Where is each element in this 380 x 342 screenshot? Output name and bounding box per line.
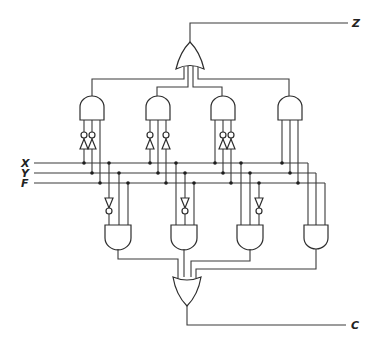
input-bus xyxy=(34,163,325,183)
inverter-icon xyxy=(227,132,235,149)
inverter-icon xyxy=(255,198,263,214)
and-gate-b2 xyxy=(171,225,197,250)
upper-and-gates xyxy=(80,96,302,120)
inverter-icon xyxy=(181,198,189,214)
inverter-icon xyxy=(219,132,227,149)
inverter-icon xyxy=(80,132,88,149)
and-gate-a2 xyxy=(146,96,170,120)
inverter-icon xyxy=(146,132,154,149)
inverter-icon xyxy=(105,198,113,214)
lower-inverters xyxy=(105,198,263,214)
and-gate-b4 xyxy=(304,225,328,249)
inverter-icon xyxy=(88,132,96,149)
or-gate-z xyxy=(176,42,204,69)
inverter-icon xyxy=(162,132,170,149)
and-gate-a1 xyxy=(80,96,104,120)
and-gate-a4 xyxy=(278,96,302,120)
or-gate-c xyxy=(173,277,201,306)
output-label-z: Z xyxy=(351,17,361,30)
lower-and-gates xyxy=(105,225,328,250)
and-gate-b3 xyxy=(237,225,263,250)
and-gate-b1 xyxy=(105,225,131,250)
upper-and-to-or-wires xyxy=(92,66,289,97)
output-label-c: C xyxy=(351,319,359,332)
lower-and-to-or-wires xyxy=(118,249,316,278)
logic-circuit-diagram: X Y F Z xyxy=(0,0,380,342)
input-label-f: F xyxy=(21,177,29,190)
circuit-svg: X Y F Z xyxy=(0,0,380,342)
and-gate-a3 xyxy=(211,96,235,120)
lower-and-input-wires xyxy=(109,163,325,225)
output-c-wire xyxy=(187,306,346,325)
output-z-wire xyxy=(190,23,348,43)
